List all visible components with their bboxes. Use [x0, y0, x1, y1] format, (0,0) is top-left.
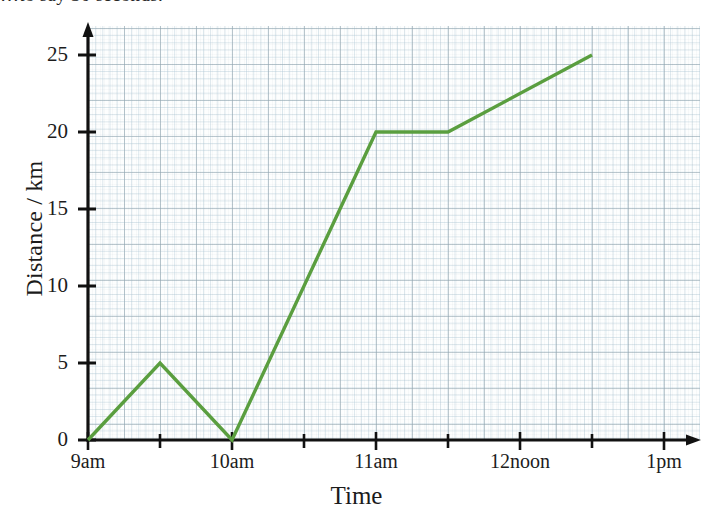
y-tick-label-25: 25	[22, 42, 68, 67]
x-tick-label-1pm: 1pm	[614, 450, 713, 473]
journey-line	[88, 55, 592, 440]
x-tick-label-10am: 10am	[182, 450, 282, 473]
y-tick-label-0: 0	[22, 427, 68, 452]
chart-page: …to say 30 seconds.	[0, 0, 713, 521]
series-layer	[0, 0, 713, 521]
distance-time-graph: 0 5 10 15 20 25 9am 10am 11am 12noon 1pm…	[0, 0, 713, 521]
x-tick-label-11am: 11am	[326, 450, 426, 473]
x-axis-title: Time	[0, 482, 713, 510]
x-tick-label-12noon: 12noon	[462, 450, 578, 473]
x-tick-label-9am: 9am	[38, 450, 138, 473]
y-tick-label-5: 5	[22, 350, 68, 375]
y-axis-title: Distance / km	[21, 119, 48, 339]
